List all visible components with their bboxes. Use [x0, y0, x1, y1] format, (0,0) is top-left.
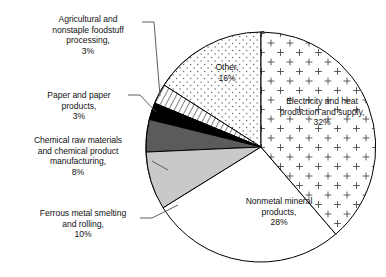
- slice-label-agricultural-nonstaple-foodstuff: Agricultural and nonstaple foodstuff pro…: [22, 14, 154, 56]
- slice-label-chemical-raw-materials: Chemical raw materials and chemical prod…: [2, 135, 154, 177]
- slice-label-electricity-and-heat: Electricity and heat production and supp…: [261, 96, 383, 128]
- pie-chart-figure: Agricultural and nonstaple foodstuff pro…: [0, 0, 386, 277]
- slice-label-paper-and-paper-products: Paper and paper products, 3%: [20, 90, 138, 122]
- slice-label-nonmetal-mineral-products: Nonmetal mineral products, 28%: [222, 196, 336, 228]
- slice-label-ferrous-metal-smelting: Ferrous metal smelting and rolling, 10%: [8, 208, 158, 240]
- slice-label-other: Other, 16%: [196, 62, 258, 83]
